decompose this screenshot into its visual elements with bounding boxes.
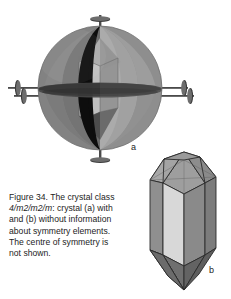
figure-caption: Figure 34. The crystal class 4/m2/m2/m: …	[9, 192, 131, 259]
caption-symbol: 4/m2/m2/m	[9, 203, 52, 213]
caption-line-2-rest: : crystal (a) with	[52, 203, 113, 213]
caption-line-5: The centre of symmetry is	[9, 237, 108, 247]
caption-line-3: and (b) without information	[9, 214, 111, 224]
panel-label-b: b	[209, 265, 214, 275]
caption-line-6: not shown.	[9, 248, 51, 258]
crystal-b	[150, 152, 216, 290]
figure-container: Figure 34. The crystal class 4/m2/m2/m: …	[0, 0, 231, 299]
panel-label-a: a	[131, 142, 136, 152]
caption-line-4: about symmetry elements.	[9, 226, 110, 236]
symmetry-sphere	[38, 26, 162, 150]
caption-line-1: Figure 34. The crystal class	[9, 192, 114, 202]
